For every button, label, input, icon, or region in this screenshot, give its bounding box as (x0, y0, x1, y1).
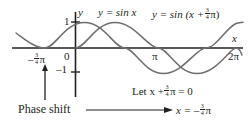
tick-label-two-pi: 2π (228, 51, 239, 62)
tick-label-y-one: 1 (64, 16, 70, 27)
annotation-let-equation: Let x +34π = 0 (132, 84, 193, 98)
tick-label-origin: 0 (64, 51, 70, 62)
x-equals-prefix: x = – (176, 104, 199, 116)
fraction-denominator: 4 (205, 13, 210, 20)
curve-label-shift-prefix: y = sin (x + (152, 8, 204, 20)
phase-shift-sine-figure: x = -3/4 pi --> y x y = sin x y = sin (x… (0, 0, 249, 123)
let-equation-suffix: π = 0 (170, 85, 193, 97)
y-axis-label: y (78, 7, 83, 18)
phase-shift-horizontal-arrow-head (164, 107, 173, 113)
tick-label-pi: π (152, 51, 158, 62)
annotation-phase-shift: Phase shift (18, 103, 70, 115)
fraction-three-quarters: 34 (34, 52, 39, 66)
let-equation-prefix: Let x + (132, 85, 164, 97)
curve-label-sin-x-plus-phase: y = sin (x +34π) (152, 7, 219, 21)
fraction-three-quarters: 34 (164, 84, 169, 98)
pi-symbol: π (205, 104, 211, 116)
annotation-x-equals-phase-shift: x = –34π (176, 103, 211, 117)
x-axis-label: x (232, 33, 237, 44)
pi-symbol: π (40, 53, 46, 65)
fraction-denominator: 4 (34, 58, 39, 65)
curve-label-shift-suffix: π) (210, 8, 219, 20)
fraction-three-quarters: 34 (205, 7, 210, 21)
tick-label-negative-three-quarters-pi: –34π (28, 52, 45, 66)
fraction-denominator: 4 (164, 90, 169, 97)
negative-sign: – (28, 53, 34, 65)
tick-label-y-negative-one: –1 (56, 64, 67, 75)
curve-label-sin-x: y = sin x (98, 7, 136, 18)
